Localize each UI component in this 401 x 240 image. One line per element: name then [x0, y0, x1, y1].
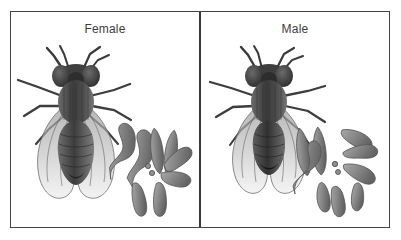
chromosome-3-lower-right — [342, 163, 377, 185]
female-karyotype — [107, 122, 195, 218]
chromosome-3-right — [160, 171, 191, 188]
male-karyotype — [291, 122, 385, 218]
comparison-figure-frame: Female — [10, 11, 390, 228]
chromosome-4-dot-pair — [145, 163, 154, 175]
chromosome-y — [316, 182, 331, 212]
chromosome-lower-left — [131, 182, 148, 217]
panel-label-female: Female — [11, 23, 199, 36]
chromosome-lower-right — [152, 182, 168, 217]
chromosome-bottom-right — [350, 182, 366, 211]
chromosome-4-dot-pair — [332, 161, 340, 174]
figure-root: Female — [0, 0, 401, 240]
chromosome-3-mid-right — [343, 144, 378, 159]
panel-female: Female — [11, 12, 200, 227]
panel-label-male: Male — [201, 23, 389, 36]
panel-male: Male — [200, 12, 389, 227]
chromosome-bottom-left — [330, 186, 346, 218]
